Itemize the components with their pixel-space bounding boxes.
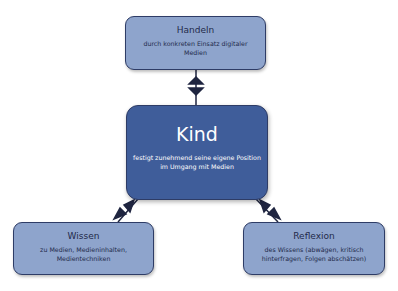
wissen-box: Wissen zu Medien, Medieninhalten, Medien… (13, 222, 154, 275)
handeln-box: Handeln durch konkreten Einsatz digitale… (125, 16, 266, 70)
handeln-title: Handeln (126, 25, 265, 35)
handeln-subtitle: durch konkreten Einsatz digitaler Medien (126, 39, 265, 57)
wissen-title: Wissen (14, 231, 153, 241)
arrow-nw-icon (260, 200, 270, 212)
wissen-subtitle: zu Medien, Medieninhalten, Medientechnik… (14, 245, 153, 263)
reflexion-box: Reflexion des Wissens (abwägen, kritisch… (243, 222, 385, 275)
arrow-sw-icon (114, 208, 126, 219)
kind-title: Kind (127, 123, 267, 145)
arrow-ne-icon (124, 200, 134, 212)
reflexion-title: Reflexion (244, 231, 384, 241)
kind-box: Kind festigt zunehmend seine eigene Posi… (126, 105, 268, 200)
reflexion-subtitle: des Wissens (abwägen, kritisch hinterfra… (244, 245, 384, 263)
arrow-down-icon (189, 88, 203, 95)
kind-subtitle: festigt zunehmend seine eigene Position … (127, 153, 267, 171)
arrow-up-icon (189, 77, 203, 84)
